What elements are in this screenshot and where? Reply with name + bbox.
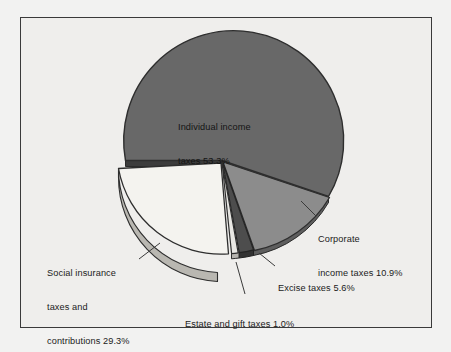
- slice-label-social-insurance-taxes-line1: Social insurance: [47, 268, 130, 279]
- leader-line-excise-taxes: [259, 253, 275, 266]
- chart-canvas: Individual income taxes 53.3% Corporate …: [0, 0, 451, 352]
- slice-label-individual-income-taxes: Individual income taxes 53.3%: [178, 99, 251, 190]
- slice-label-social-insurance-taxes: Social insurance taxes and contributions…: [47, 245, 130, 352]
- slice-label-social-insurance-taxes-line3: contributions 29.3%: [47, 336, 130, 347]
- slice-label-individual-income-taxes-line2: taxes 53.3%: [178, 156, 251, 167]
- slice-label-corporate-income-taxes-line1: Corporate: [318, 234, 403, 245]
- leader-line-estate-and-gift-taxes: [236, 262, 245, 294]
- slice-label-estate-and-gift-taxes-line1: Estate and gift taxes 1.0%: [185, 319, 294, 330]
- slice-label-estate-and-gift-taxes: Estate and gift taxes 1.0%: [185, 296, 294, 352]
- slice-label-social-insurance-taxes-line2: taxes and: [47, 302, 130, 313]
- slice-label-individual-income-taxes-line1: Individual income: [178, 122, 251, 133]
- slice-label-excise-taxes-line1: Excise taxes 5.6%: [278, 283, 355, 294]
